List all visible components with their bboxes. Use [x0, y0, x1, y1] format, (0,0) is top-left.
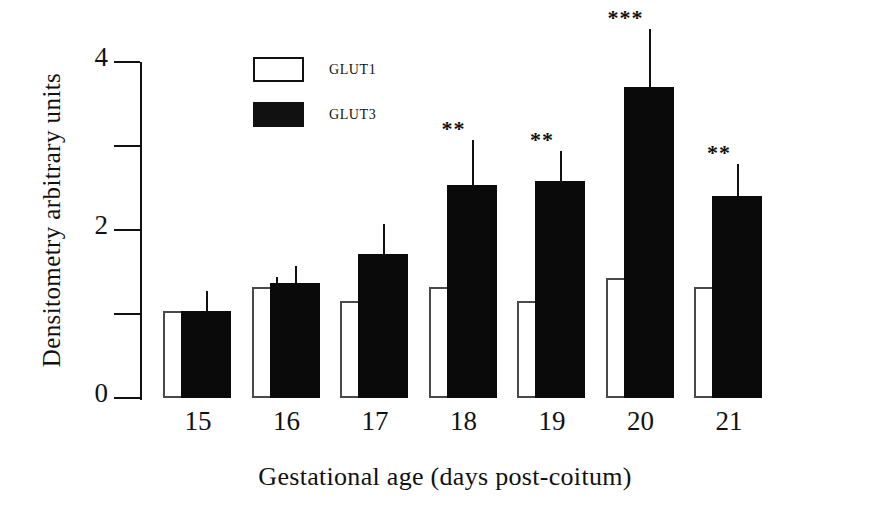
chart-legend: GLUT1 GLUT3 — [253, 57, 376, 147]
bar-glut1-day-21 — [694, 287, 714, 398]
error-bar-glut3-day-17 — [383, 224, 385, 253]
x-tick-label-15: 15 — [163, 408, 233, 435]
x-tick-label-16: 16 — [252, 408, 322, 435]
significance-marker-day-18: ** — [442, 118, 466, 140]
x-tick-label-19: 19 — [517, 408, 587, 435]
y-tick-2 — [114, 229, 140, 231]
significance-marker-day-21: ** — [707, 142, 731, 164]
bar-group-day-21 — [694, 62, 764, 398]
bar-glut3-day-21 — [712, 196, 762, 398]
bar-glut1-day-19 — [517, 301, 537, 398]
bar-group-day-18 — [429, 62, 499, 398]
bar-glut3-day-15 — [181, 311, 231, 398]
bar-glut3-day-18 — [447, 185, 497, 398]
plot-area: 024151617**18**19***20**21 — [0, 0, 890, 521]
y-tick-0 — [114, 397, 140, 399]
legend-label-glut3: GLUT3 — [329, 107, 376, 123]
y-tick-label-2: 2 — [62, 212, 108, 239]
legend-swatch-glut1 — [253, 57, 304, 82]
x-tick-label-18: 18 — [429, 408, 499, 435]
bar-group-day-20 — [606, 62, 676, 398]
y-tick-label-0: 0 — [62, 380, 108, 407]
significance-marker-day-20: *** — [608, 7, 644, 29]
bar-glut1-day-20 — [606, 278, 626, 398]
error-bar-glut3-day-21 — [737, 164, 739, 197]
bar-glut1-day-17 — [340, 301, 360, 398]
bar-glut3-day-20 — [624, 87, 674, 398]
bar-glut3-day-17 — [358, 254, 408, 398]
x-tick-label-17: 17 — [340, 408, 410, 435]
legend-label-glut1: GLUT1 — [329, 62, 376, 78]
legend-swatch-glut3 — [253, 102, 304, 127]
error-bar-glut3-day-15 — [206, 291, 208, 311]
x-tick-label-21: 21 — [694, 408, 764, 435]
y-tick-label-4: 4 — [62, 44, 108, 71]
error-bar-glut3-day-16 — [295, 266, 297, 283]
bar-glut1-day-16 — [252, 287, 272, 398]
error-bar-glut3-day-19 — [560, 151, 562, 181]
bar-group-day-19 — [517, 62, 587, 398]
legend-entry-glut1: GLUT1 — [253, 57, 376, 82]
error-bar-glut3-day-18 — [472, 140, 474, 185]
bar-glut1-day-15 — [163, 311, 183, 398]
bar-group-day-15 — [163, 62, 233, 398]
y-tick-1 — [114, 313, 140, 315]
figure-bar-chart: Densitometry arbitrary units 024151617**… — [0, 0, 890, 521]
significance-marker-day-19: ** — [530, 129, 554, 151]
error-bar-glut3-day-20 — [649, 29, 651, 87]
x-axis-title: Gestational age (days post-coitum) — [0, 462, 890, 492]
y-tick-3 — [114, 145, 140, 147]
y-axis-line — [140, 62, 142, 400]
bar-glut3-day-19 — [535, 181, 585, 398]
bar-glut3-day-16 — [270, 283, 320, 398]
legend-entry-glut3: GLUT3 — [253, 102, 376, 127]
bar-glut1-day-18 — [429, 287, 449, 398]
x-tick-label-20: 20 — [606, 408, 676, 435]
y-tick-4 — [114, 61, 140, 63]
error-bar-glut1-day-16 — [276, 277, 278, 287]
